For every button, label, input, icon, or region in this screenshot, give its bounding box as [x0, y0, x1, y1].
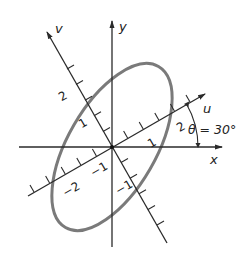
u-tick-label-1: 1 [145, 135, 159, 151]
u-tick-label-neg1: −1 [88, 159, 110, 180]
u-tick-label-2: 2 [174, 119, 188, 135]
angle-label: θ = 30° [188, 122, 236, 137]
u-axis-label: u [203, 101, 211, 116]
v-axis-label: v [55, 21, 63, 36]
origin-point [110, 145, 114, 149]
v-tick-label-1: 1 [76, 115, 90, 131]
u-tick-label-neg2: −2 [60, 179, 82, 200]
v-tick-label-2: 2 [56, 88, 70, 104]
coordinate-diagram: x y u v θ = 30° 1 2 −1 −2 1 2 −1 [0, 0, 239, 261]
x-axis-label: x [209, 152, 218, 167]
diagram-canvas: x y u v θ = 30° 1 2 −1 −2 1 2 −1 [0, 0, 239, 261]
y-axis-label: y [118, 19, 127, 34]
u-axis [28, 94, 205, 196]
